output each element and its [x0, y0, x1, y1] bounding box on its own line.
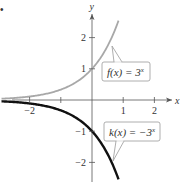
y-tick-label: 1 — [81, 63, 86, 74]
chart: xy −212−2−112 f(x) = 3xk(x) = −3x — [0, 0, 183, 185]
y-tick-label: −1 — [75, 126, 86, 137]
y-axis-label: y — [89, 1, 95, 12]
x-tick-label: 2 — [152, 105, 157, 116]
y-tick-label: 2 — [81, 32, 86, 43]
x-tick-label: 1 — [121, 105, 126, 116]
callout-label: f(x) = 3x — [107, 66, 145, 79]
axes: xy — [12, 1, 180, 182]
x-axis-label: x — [174, 95, 180, 106]
x-tick-label: −2 — [24, 105, 35, 116]
series-line-k — [2, 101, 119, 179]
y-tick-label: −2 — [75, 157, 86, 168]
callout-k: k(x) = −3x — [104, 122, 160, 161]
callout-label: k(x) = −3x — [109, 126, 156, 139]
callout-pointer — [113, 141, 124, 161]
callout-f: f(x) = 3x — [102, 46, 150, 81]
callouts: f(x) = 3xk(x) = −3x — [102, 46, 160, 161]
series-line-f — [2, 21, 119, 99]
callout-pointer — [112, 46, 122, 62]
